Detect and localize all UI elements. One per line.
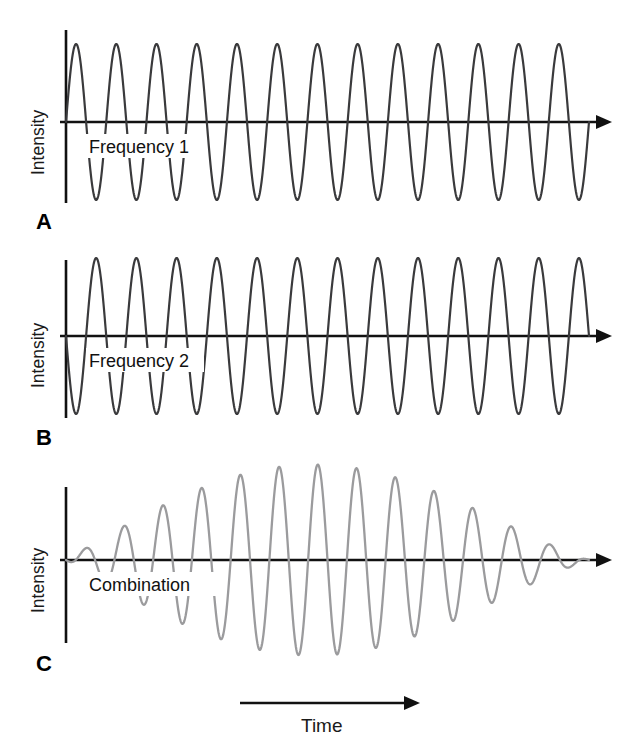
panel-a-inline-label: Frequency 1 — [89, 137, 189, 157]
panel-c-y-axis-label: Intensity — [28, 548, 48, 613]
time-axis-label: Time — [301, 715, 343, 736]
panel-c-axes — [60, 487, 612, 643]
panel-b-y-axis-label: Intensity — [28, 323, 48, 388]
arrow-right-icon — [596, 553, 612, 567]
panel-c: Intensity Combination C — [0, 455, 641, 685]
panel-a: Intensity Frequency 1 A — [0, 0, 641, 240]
time-axis-plot: Time — [0, 685, 641, 740]
panel-b: Intensity Frequency 2 B — [0, 240, 641, 455]
arrow-right-icon — [596, 115, 612, 129]
panel-a-plot: Intensity Frequency 1 A — [0, 0, 641, 240]
panel-a-letter: A — [36, 209, 52, 234]
panel-a-y-axis-label: Intensity — [28, 110, 48, 175]
arrow-right-icon — [596, 329, 612, 343]
arrow-right-icon — [404, 696, 420, 710]
panel-c-inline-label: Combination — [89, 575, 190, 595]
panel-c-plot: Intensity Combination C — [0, 455, 641, 685]
wave-interference-figure: Intensity Frequency 1 A Intensity Freque… — [0, 0, 641, 740]
panel-b-inline-label: Frequency 2 — [89, 351, 189, 371]
panel-c-letter: C — [36, 651, 52, 676]
time-axis: Time — [0, 685, 641, 740]
panel-b-plot: Intensity Frequency 2 B — [0, 240, 641, 455]
panel-b-letter: B — [36, 425, 52, 450]
